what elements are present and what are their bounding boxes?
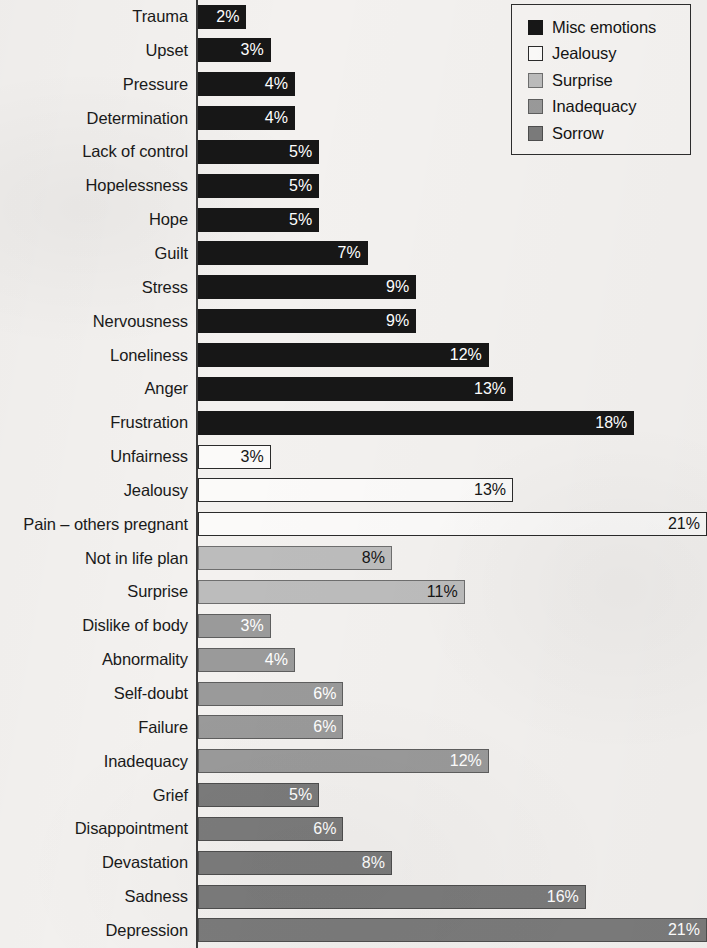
bar-wrapper: 3% [198, 445, 271, 469]
bar-category-label: Guilt [0, 237, 188, 271]
bar-value-label: 4% [265, 72, 288, 96]
bar-wrapper: 12% [198, 749, 489, 773]
bar-category-label: Pain – others pregnant [0, 508, 188, 542]
bar-row: Hope5% [0, 203, 707, 237]
bar [198, 918, 707, 942]
bar-value-label: 2% [216, 5, 239, 29]
bar-row: Hopelessness5% [0, 169, 707, 203]
bar-value-label: 9% [386, 309, 409, 333]
bar-value-label: 7% [338, 241, 361, 265]
legend-swatch-icon [528, 126, 543, 141]
bar-wrapper: 3% [198, 38, 271, 62]
bar-row: Anger13% [0, 372, 707, 406]
bar [198, 275, 416, 299]
bar-value-label: 21% [668, 512, 700, 536]
bar-wrapper: 3% [198, 614, 271, 638]
bar-value-label: 9% [386, 275, 409, 299]
bar-value-label: 4% [265, 648, 288, 672]
bar-row: Dislike of body3% [0, 609, 707, 643]
bar-row: Frustration18% [0, 406, 707, 440]
bar [198, 411, 634, 435]
bar-wrapper: 9% [198, 309, 416, 333]
bar-wrapper: 21% [198, 918, 707, 942]
bar [198, 749, 489, 773]
bar-wrapper: 8% [198, 851, 392, 875]
legend-label: Surprise [552, 71, 613, 90]
bar-value-label: 13% [474, 377, 506, 401]
bar-value-label: 8% [362, 546, 385, 570]
chart-legend: Misc emotionsJealousySurpriseInadequacyS… [511, 4, 691, 155]
bar-row: Self-doubt6% [0, 677, 707, 711]
legend-item-misc-emotions: Misc emotions [528, 14, 690, 41]
bar-value-label: 5% [289, 140, 312, 164]
bar-row: Unfairness3% [0, 440, 707, 474]
legend-item-surprise: Surprise [528, 67, 690, 94]
bar-wrapper: 12% [198, 343, 489, 367]
bar-category-label: Trauma [0, 0, 188, 34]
bar-value-label: 11% [427, 580, 458, 604]
bar-category-label: Pressure [0, 68, 188, 102]
bar-value-label: 8% [362, 851, 385, 875]
bar [198, 885, 586, 909]
bar-value-label: 5% [289, 208, 312, 232]
bar-value-label: 21% [668, 918, 700, 942]
bar-row: Disappointment6% [0, 812, 707, 846]
bar [198, 377, 513, 401]
bar-wrapper: 21% [198, 512, 707, 536]
bar-row: Loneliness12% [0, 339, 707, 373]
bar-value-label: 16% [547, 885, 579, 909]
bar-wrapper: 4% [198, 72, 295, 96]
bar-row: Nervousness9% [0, 305, 707, 339]
bar-wrapper: 6% [198, 682, 343, 706]
bar-wrapper: 5% [198, 208, 319, 232]
legend-swatch-icon [528, 46, 543, 61]
bar-wrapper: 4% [198, 648, 295, 672]
bar-wrapper: 13% [198, 377, 513, 401]
bar-row: Abnormality4% [0, 643, 707, 677]
bar-wrapper: 9% [198, 275, 416, 299]
bar-row: Failure6% [0, 711, 707, 745]
bar-value-label: 6% [313, 715, 336, 739]
bar-value-label: 4% [265, 106, 288, 130]
bar-category-label: Devastation [0, 846, 188, 880]
bar-value-label: 3% [241, 614, 264, 638]
bar-value-label: 12% [450, 343, 482, 367]
legend-label: Sorrow [552, 124, 604, 143]
bar-row: Not in life plan8% [0, 542, 707, 576]
legend-label: Inadequacy [552, 97, 636, 116]
category-axis-line [196, 0, 198, 948]
bar-value-label: 12% [450, 749, 482, 773]
bar [198, 512, 707, 536]
legend-item-sorrow: Sorrow [528, 120, 690, 147]
bar-row: Inadequacy12% [0, 745, 707, 779]
bar-category-label: Dislike of body [0, 609, 188, 643]
bar [198, 309, 416, 333]
bar-value-label: 6% [313, 682, 336, 706]
bar-category-label: Inadequacy [0, 745, 188, 779]
bar-value-label: 5% [289, 174, 312, 198]
bar-value-label: 3% [241, 445, 264, 469]
bar-wrapper: 4% [198, 106, 295, 130]
legend-label: Jealousy [552, 44, 616, 63]
bar-category-label: Jealousy [0, 474, 188, 508]
bar-wrapper: 13% [198, 478, 513, 502]
bar-wrapper: 5% [198, 174, 319, 198]
bar-category-label: Failure [0, 711, 188, 745]
bar-wrapper: 7% [198, 241, 368, 265]
bar-category-label: Not in life plan [0, 542, 188, 576]
bar-category-label: Hopelessness [0, 169, 188, 203]
bar-category-label: Self-doubt [0, 677, 188, 711]
bar-wrapper: 2% [198, 5, 246, 29]
bar-wrapper: 18% [198, 411, 634, 435]
bar-value-label: 5% [289, 783, 312, 807]
bar-category-label: Stress [0, 271, 188, 305]
bar-wrapper: 6% [198, 715, 343, 739]
bar-row: Devastation8% [0, 846, 707, 880]
bar-category-label: Unfairness [0, 440, 188, 474]
bar-value-label: 13% [474, 478, 506, 502]
bar-value-label: 3% [241, 38, 264, 62]
bar-wrapper: 6% [198, 817, 343, 841]
bar-value-label: 6% [313, 817, 336, 841]
bar-category-label: Hope [0, 203, 188, 237]
bar-wrapper: 16% [198, 885, 586, 909]
